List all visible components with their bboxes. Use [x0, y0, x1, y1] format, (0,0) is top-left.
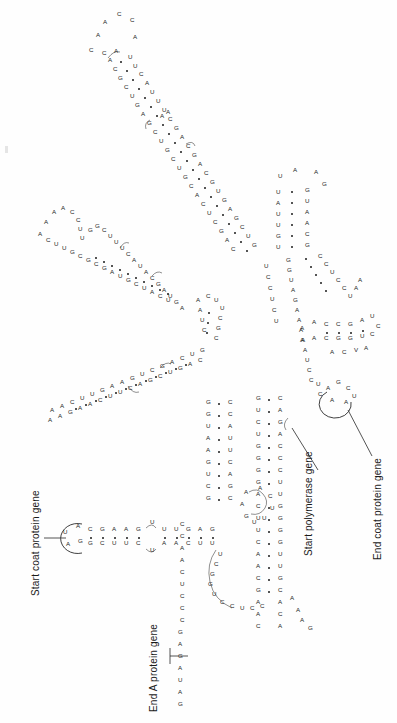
svg-text:G: G: [206, 458, 211, 465]
svg-text:G: G: [348, 334, 353, 341]
svg-text:A: A: [124, 525, 129, 532]
svg-text:C: C: [134, 280, 139, 287]
svg-text:U: U: [218, 550, 222, 557]
hairpin-uauugu: UA AG UG AU UA UA GC UG: [276, 166, 327, 250]
annotation-start-coat-protein-gene: Start coat protein gene: [30, 490, 41, 596]
svg-text:G: G: [278, 526, 283, 533]
svg-text:G: G: [148, 376, 153, 383]
svg-text:C: C: [266, 273, 271, 280]
svg-text:C: C: [136, 539, 141, 546]
svg-text:C: C: [342, 348, 347, 355]
svg-text:U: U: [256, 514, 260, 521]
svg-text:G: G: [206, 410, 211, 417]
page-artifact: [5, 146, 8, 153]
svg-text:G: G: [222, 196, 227, 203]
svg-text:A: A: [180, 304, 185, 311]
svg-text:A: A: [297, 316, 302, 323]
svg-text:G: G: [256, 394, 261, 401]
svg-text:C: C: [256, 538, 261, 545]
svg-text:C: C: [201, 200, 206, 207]
svg-text:A: A: [198, 306, 203, 313]
svg-text:A: A: [295, 306, 300, 313]
svg-text:C: C: [202, 326, 207, 333]
svg-text:C: C: [171, 155, 176, 162]
svg-text:C: C: [278, 610, 283, 617]
svg-text:G: G: [178, 364, 183, 371]
svg-text:A: A: [110, 382, 115, 389]
rna-structure-figure: AC CA AC C A AU CU GC CA UU GU AU GC CG …: [0, 0, 397, 723]
svg-text:A: A: [276, 199, 281, 206]
svg-text:U: U: [270, 295, 274, 302]
svg-text:A: A: [344, 398, 349, 405]
svg-text:A: A: [88, 400, 93, 407]
svg-text:C: C: [206, 482, 211, 489]
svg-text:A: A: [225, 236, 230, 243]
svg-text:A: A: [206, 446, 211, 453]
svg-text:A: A: [138, 380, 143, 387]
svg-text:A: A: [178, 640, 183, 647]
arm-left-upper: AA CC AU AU CG UG UC GU CU GU CC GA AU U…: [38, 204, 185, 311]
svg-text:C: C: [278, 442, 283, 449]
svg-text:G: G: [174, 124, 179, 131]
svg-text:U: U: [278, 478, 282, 485]
svg-text:C: C: [268, 284, 273, 291]
svg-text:G: G: [322, 180, 327, 187]
svg-text:G: G: [118, 74, 123, 81]
svg-text:C: C: [124, 83, 129, 90]
svg-text:C: C: [228, 398, 233, 405]
hairpin-coat-start: UA AG CG GC AU AU GC UU UA UA GC AU GU: [63, 518, 215, 553]
svg-text:U: U: [228, 446, 232, 453]
svg-text:A: A: [160, 112, 165, 119]
svg-text:C: C: [250, 604, 255, 611]
svg-text:U: U: [198, 539, 202, 546]
svg-text:C: C: [307, 366, 312, 373]
svg-text:U: U: [156, 97, 160, 104]
svg-text:C: C: [213, 218, 218, 225]
svg-text:U: U: [162, 525, 166, 532]
svg-text:C: C: [228, 410, 233, 417]
svg-text:G: G: [244, 512, 249, 519]
svg-text:U: U: [214, 296, 218, 303]
svg-text:A: A: [174, 539, 179, 546]
svg-text:U: U: [370, 312, 374, 319]
svg-text:A: A: [240, 500, 245, 507]
svg-text:A: A: [291, 286, 296, 293]
svg-text:U: U: [159, 137, 163, 144]
svg-text:G: G: [178, 652, 183, 659]
svg-text:V: V: [354, 346, 359, 353]
svg-text:A: A: [103, 18, 108, 25]
svg-text:A: A: [132, 256, 137, 263]
five-prime-tail: GA UA GA GC CC UC AA CC: [178, 520, 185, 707]
svg-text:A: A: [112, 525, 117, 532]
stem-top-ladder: AU CU GC CA UU GU AU GC CG UA GC CG UA G…: [108, 53, 257, 252]
svg-text:G: G: [252, 241, 257, 248]
svg-text:U: U: [54, 240, 58, 247]
svg-text:C: C: [260, 602, 265, 609]
svg-text:C: C: [158, 372, 163, 379]
svg-text:C: C: [46, 236, 51, 243]
svg-text:U: U: [108, 392, 112, 399]
svg-text:G: G: [100, 386, 105, 393]
svg-text:A: A: [303, 346, 308, 353]
svg-text:C: C: [240, 223, 245, 230]
svg-text:U: U: [305, 356, 309, 363]
svg-text:C: C: [180, 604, 185, 611]
svg-text:U: U: [78, 225, 82, 232]
pair-dots-coat-start: [90, 537, 214, 539]
svg-text:U: U: [118, 272, 122, 279]
svg-text:C: C: [180, 520, 185, 527]
svg-text:U: U: [168, 368, 172, 375]
svg-text:U: U: [270, 504, 274, 511]
svg-text:A: A: [296, 606, 301, 613]
svg-text:C: C: [78, 252, 83, 259]
polymerase-stem: GC UA CG UA GC GC GC GU AU CG UG UG CG A…: [256, 394, 283, 629]
pair-dots-mid-left: [206, 312, 210, 334]
svg-text:C: C: [318, 252, 323, 259]
annotation-start-polymerase-gene: Start polymerase gene: [303, 451, 314, 556]
svg-text:U: U: [210, 539, 214, 546]
svg-text:U: U: [62, 244, 66, 251]
svg-text:U: U: [278, 172, 282, 179]
svg-text:G: G: [234, 214, 239, 221]
hairpin-mid-left: AC UU AC UG CC: [196, 292, 224, 341]
svg-text:U: U: [278, 490, 282, 497]
